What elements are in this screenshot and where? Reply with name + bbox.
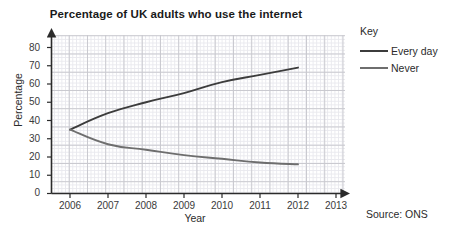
x-tick-label: 2011 [240,201,280,211]
legend-label-every-day: Every day [391,45,438,57]
x-tick-label: 2012 [278,201,318,211]
legend-swatch-every-day-icon [360,50,388,52]
series-line-never [70,130,298,165]
legend-label-never: Never [391,62,419,74]
chart-legend: Key Every day Never [360,26,452,76]
x-tick-label: 2006 [50,201,90,211]
y-tick-label: 10 [14,170,40,180]
legend-item-never[interactable]: Never [360,59,452,76]
x-tick-label: 2007 [88,201,128,211]
x-axis-label: Year [150,212,240,224]
y-tick-label: 20 [14,152,40,162]
legend-title: Key [360,26,452,37]
y-axis-label: Percentage [12,60,24,140]
x-tick-label: 2009 [164,201,204,211]
x-tick-label: 2013 [316,201,356,211]
x-tick-label: 2010 [202,201,242,211]
chart-figure: Percentage of UK adults who use the inte… [0,0,452,240]
y-tick-label: 0 [14,188,40,198]
legend-item-every-day[interactable]: Every day [360,42,452,59]
legend-swatch-never-icon [360,67,388,69]
x-tick-label: 2008 [126,201,166,211]
series-line-every-day [70,68,298,130]
y-tick-label: 80 [14,43,40,53]
source-note: Source: ONS [366,208,428,220]
